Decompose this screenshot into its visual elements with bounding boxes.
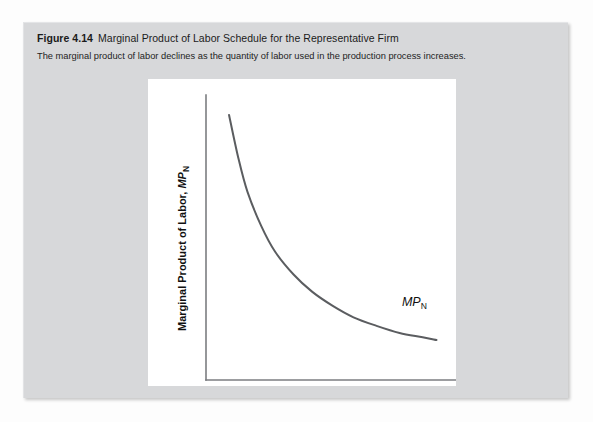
figure-subtitle: The marginal product of labor declines a…	[37, 50, 557, 63]
y-axis-label: Marginal Product of Labor, MPN	[176, 166, 191, 331]
figure-title-text: Marginal Product of Labor Schedule for t…	[98, 32, 399, 44]
page-surface: Figure 4.14Marginal Product of Labor Sch…	[0, 0, 593, 422]
mp-n-curve-label: MPN	[402, 295, 427, 311]
figure-number: Figure 4.14	[37, 32, 93, 44]
chart-panel: Marginal Product of Labor, MPN Labor Inp…	[148, 79, 456, 386]
figure-caption-block: Figure 4.14Marginal Product of Labor Sch…	[37, 31, 557, 63]
y-axis-label-sub: N	[181, 166, 191, 172]
mp-labor-chart: Marginal Product of Labor, MPN Labor Inp…	[148, 79, 456, 386]
y-axis-label-text: Marginal Product of Labor,	[176, 189, 188, 331]
y-axis-label-var: MP	[176, 171, 188, 188]
curve-label-sub: N	[421, 301, 427, 311]
curve-label-var: MP	[402, 295, 421, 309]
figure-title: Figure 4.14Marginal Product of Labor Sch…	[37, 31, 557, 46]
figure-box: Figure 4.14Marginal Product of Labor Sch…	[23, 22, 568, 398]
